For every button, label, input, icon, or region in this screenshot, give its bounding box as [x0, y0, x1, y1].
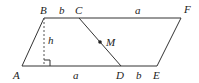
right-angle-marker — [44, 60, 50, 66]
point-label-F: F — [183, 3, 191, 15]
point-label-B: B — [40, 4, 47, 16]
segment-label-BC: b — [59, 4, 65, 16]
point-label-M: M — [105, 36, 116, 48]
segment-FE — [157, 18, 181, 66]
point-label-D: D — [115, 69, 124, 81]
point-label-E: E — [152, 69, 160, 81]
point-label-C: C — [75, 4, 83, 16]
segment-label-DE: b — [136, 69, 142, 81]
segment-label-CF: a — [135, 4, 141, 16]
point-label-A: A — [12, 69, 20, 81]
segment-AB — [22, 18, 44, 66]
segment-label-AD: a — [73, 69, 79, 81]
height-label-h: h — [48, 34, 54, 46]
geometry-diagram: B b C a F h M A a D b E — [0, 0, 199, 83]
midpoint-M-dot — [98, 40, 102, 44]
